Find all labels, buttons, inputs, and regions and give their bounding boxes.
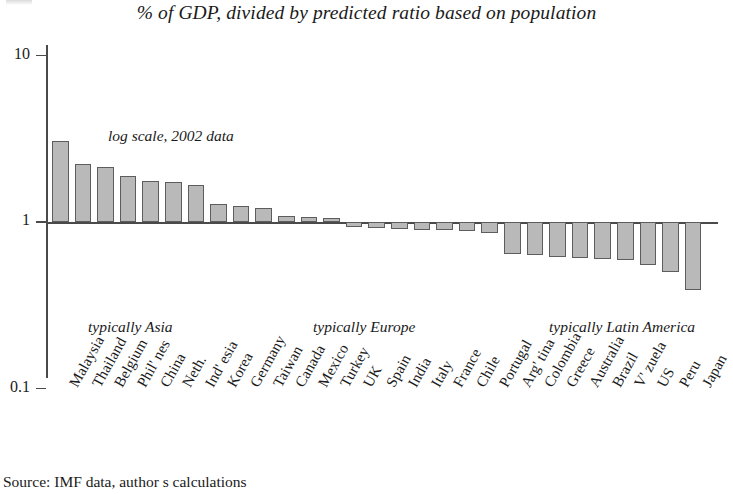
region-label: typically Asia [88, 318, 173, 336]
bar [459, 222, 476, 231]
bar [572, 222, 589, 258]
bar [414, 222, 431, 230]
bar [278, 216, 295, 222]
bar [142, 181, 159, 222]
y-tick-mark [36, 55, 46, 57]
bar [504, 222, 521, 254]
chart-figure: % of GDP, divided by predicted ratio bas… [0, 0, 733, 494]
bar [323, 218, 340, 222]
bar [685, 222, 702, 290]
bar [391, 222, 408, 229]
bar [368, 222, 385, 228]
bar [527, 222, 544, 255]
bar [301, 217, 318, 222]
source-note: Source: IMF data, author s calculations [3, 473, 247, 491]
y-tick-mark [36, 221, 46, 223]
bar [617, 222, 634, 260]
chart-title: % of GDP, divided by predicted ratio bas… [0, 2, 733, 24]
bar [255, 208, 272, 222]
bar [481, 222, 498, 233]
category-axis-labels: MalaysiaThailandBelgiumPhil' nesChinaNet… [0, 382, 733, 472]
bar [436, 222, 453, 230]
bar [188, 185, 205, 222]
bar [549, 222, 566, 257]
bar [120, 176, 137, 222]
y-tick-label-10: 10 [0, 45, 30, 63]
region-label: typically Europe [313, 318, 415, 336]
bar [346, 222, 363, 227]
bar [662, 222, 679, 272]
log-scale-note: log scale, 2002 data [108, 127, 234, 145]
y-tick-label-1: 1 [0, 211, 30, 229]
bar [97, 167, 114, 222]
bar [233, 206, 250, 222]
bar [75, 164, 92, 222]
bar [52, 141, 69, 222]
bar [640, 222, 657, 265]
bar [165, 182, 182, 222]
bar [210, 204, 227, 222]
bar [594, 222, 611, 259]
